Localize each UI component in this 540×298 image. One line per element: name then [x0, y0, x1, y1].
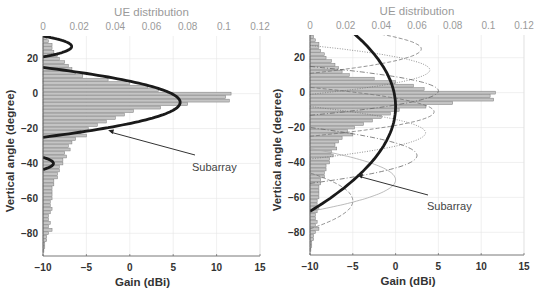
top-axis-tick: 0.12 [514, 20, 534, 31]
subarray-gain-curve [43, 67, 180, 137]
histogram-bar [43, 120, 106, 123]
histogram-bar [43, 141, 72, 144]
histogram-bar [43, 152, 65, 155]
histogram-bar [43, 82, 130, 85]
histogram-bar [310, 168, 326, 171]
histogram-bar [43, 40, 48, 43]
arrow-icon [108, 130, 114, 134]
histogram-bar [43, 92, 231, 95]
top-axis-tick: 0.1 [481, 20, 495, 31]
histogram-bar [43, 221, 50, 224]
histogram-bar [310, 39, 315, 42]
histogram-bar [43, 145, 68, 148]
left-axis-tick: 20 [27, 53, 39, 64]
histogram-bar [310, 102, 453, 105]
histogram-bar [43, 211, 50, 214]
histogram-bar [310, 144, 335, 147]
histogram-bar [310, 154, 333, 157]
histogram-bar [43, 110, 133, 113]
histogram-bar [43, 75, 83, 78]
top-axis-tick: 0.02 [69, 21, 89, 32]
histogram-bar [43, 197, 52, 200]
top-axis-title: UE distribution [114, 6, 189, 18]
bottom-axis-tick: 15 [518, 261, 530, 272]
histogram-bar [43, 113, 124, 116]
x-axis-label: Gain (dBi) [115, 276, 170, 288]
chart-right: 00.020.040.060.080.10.12UE distribution−… [271, 2, 534, 287]
histogram-bar [310, 161, 330, 164]
left-axis-tick: −60 [288, 192, 305, 203]
histogram-bar [310, 109, 399, 112]
top-axis-tick: 0.04 [106, 21, 126, 32]
histogram-bar [43, 50, 54, 53]
bottom-axis-tick: 10 [211, 262, 223, 273]
histogram-bar [43, 186, 52, 189]
histogram-bar [310, 119, 372, 122]
histogram-bar [43, 85, 148, 88]
histogram-bar [310, 238, 314, 241]
y-axis-label: Vertical angle (degree) [271, 88, 283, 211]
bottom-axis-tick: −5 [81, 262, 93, 273]
histogram-bar [43, 78, 108, 81]
histogram-bar [310, 224, 315, 227]
top-axis-tick: 0.1 [217, 21, 231, 32]
left-axis-tick: −80 [288, 227, 305, 238]
top-axis-tick: 0 [307, 20, 313, 31]
histogram-bar [310, 35, 314, 38]
top-axis-tick: 0.06 [142, 21, 162, 32]
bottom-axis-tick: 5 [436, 261, 442, 272]
left-axis-tick: 0 [299, 87, 305, 98]
histogram-bar [43, 207, 52, 210]
histogram-bar [43, 239, 47, 242]
histogram-bar [310, 126, 355, 129]
histogram-bar [310, 227, 319, 230]
bottom-axis-tick: 15 [254, 262, 266, 273]
histogram-bar [310, 49, 321, 52]
left-axis-tick: −80 [21, 228, 38, 239]
histogram-bar [43, 96, 226, 99]
histogram-bar [43, 235, 47, 238]
top-axis-tick: 0 [40, 21, 46, 32]
histogram-bar [310, 140, 339, 143]
histogram-bar [43, 190, 52, 193]
figure: 00.020.040.060.080.10.12UE distribution−… [0, 0, 540, 298]
grid [310, 35, 524, 255]
x-axis-label: Gain (dBi) [381, 275, 436, 287]
histogram-bar [310, 56, 326, 59]
histogram-bar [43, 43, 52, 46]
left-axis-tick: 0 [32, 88, 38, 99]
histogram-bar [43, 61, 65, 64]
top-axis-title: UE distribution [380, 5, 455, 17]
histogram-bar [310, 178, 321, 181]
histogram-bar [310, 185, 319, 188]
histogram-bar [310, 112, 390, 115]
histogram-bar [43, 127, 88, 130]
bottom-axis-tick: 5 [170, 262, 176, 273]
histogram-bar [310, 105, 426, 108]
top-axis-tick: 0.06 [407, 20, 427, 31]
histogram-bar [43, 124, 97, 127]
top-axis-tick: 0.04 [372, 20, 392, 31]
histogram-bar [310, 95, 490, 98]
histogram-bar [43, 106, 161, 109]
left-axis-tick: −40 [288, 157, 305, 168]
histogram-bar [310, 231, 315, 234]
histogram-bar [310, 217, 315, 220]
histogram-bar [43, 176, 57, 179]
histogram-bar [43, 89, 159, 92]
grid [43, 36, 260, 256]
histogram-bar [310, 60, 331, 63]
left-axis-tick: −60 [21, 193, 38, 204]
top-axis-tick: 0.08 [178, 21, 198, 32]
histogram-bar [43, 99, 229, 102]
histogram-bar [310, 42, 319, 45]
histogram-bar [43, 225, 48, 228]
histogram-bar [310, 116, 381, 119]
top-axis-tick: 0.08 [443, 20, 463, 31]
chart-left: 00.020.040.060.080.10.12UE distribution−… [4, 6, 270, 288]
left-axis-tick: 20 [294, 52, 306, 63]
gain-curves [310, 2, 438, 229]
histogram-bar [43, 172, 57, 175]
histogram-bar [310, 81, 396, 84]
histogram-bar [43, 193, 52, 196]
